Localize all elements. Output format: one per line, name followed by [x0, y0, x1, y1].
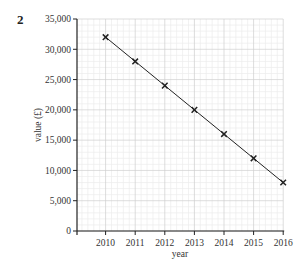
x-tick-label: 2014 [215, 238, 234, 248]
y-tick-label: 30,000 [45, 45, 71, 55]
axes [77, 19, 284, 235]
x-tick-label: 2013 [185, 238, 204, 248]
x-tick-label: 2016 [274, 238, 293, 248]
y-tick-label: 5,000 [50, 196, 72, 206]
x-tick-label: 2012 [155, 238, 174, 248]
x-tick-label: 2010 [96, 238, 115, 248]
y-axis-title: value (£) [33, 108, 44, 142]
x-tick-label: 2015 [244, 238, 263, 248]
grid-major [77, 19, 283, 231]
x-axis-title: year [172, 249, 189, 259]
y-tick-label: 35,000 [45, 14, 71, 24]
y-axis-ticks: 05,00010,00015,00020,00025,00030,00035,0… [45, 14, 77, 236]
y-tick-label: 15,000 [45, 135, 71, 145]
y-tick-label: 25,000 [45, 75, 71, 85]
x-tick-label: 2011 [126, 238, 145, 248]
line-chart: 05,00010,00015,00020,00025,00030,00035,0… [0, 0, 304, 279]
grid-minor [77, 19, 283, 231]
y-tick-label: 0 [66, 226, 71, 236]
y-tick-label: 10,000 [45, 166, 71, 176]
y-tick-label: 20,000 [45, 105, 71, 115]
x-axis-ticks: 2010201120122013201420152016 [96, 231, 293, 248]
